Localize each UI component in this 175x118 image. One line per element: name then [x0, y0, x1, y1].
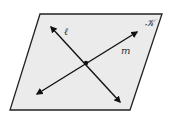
geometry-diagram: ℓ m 𝒦 — [0, 0, 175, 118]
label-m: m — [121, 45, 130, 56]
intersection-point — [84, 61, 88, 65]
label-l: ℓ — [64, 26, 68, 37]
